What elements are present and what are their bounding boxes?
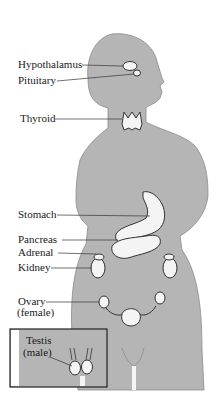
label-pancreas: Pancreas [18, 234, 57, 245]
kidney-right [163, 258, 177, 278]
testis-left [70, 361, 81, 375]
adrenal-right [164, 254, 174, 260]
label-hypothalamus: Hypothalamus [18, 59, 82, 70]
label-kidney: Kidney [18, 262, 50, 273]
label-stomach: Stomach [18, 209, 57, 220]
label-pituitary: Pituitary [18, 75, 56, 86]
label-adrenal: Adrenal [18, 247, 53, 258]
leg-gap [132, 366, 136, 390]
ovary-left [99, 296, 109, 308]
hypothalamus-gland [123, 62, 137, 71]
thyroid-gland [122, 112, 142, 130]
testis-right [82, 360, 93, 374]
label-testis: Testis [26, 335, 52, 346]
inset-white-strip [11, 330, 19, 386]
pituitary-gland [134, 70, 141, 76]
ovary-right [155, 292, 165, 304]
uterus [122, 309, 141, 326]
inset-leg-gap [80, 376, 85, 386]
testis-inset [10, 329, 107, 387]
adrenal-left [94, 254, 104, 260]
label-testis-note: (male) [23, 347, 52, 358]
label-ovary-note: (female) [17, 307, 54, 318]
endocrine-diagram: Hypothalamus Pituitary Thyroid Stomach P… [0, 0, 223, 403]
kidney-left [91, 258, 105, 278]
label-thyroid: Thyroid [20, 113, 55, 124]
